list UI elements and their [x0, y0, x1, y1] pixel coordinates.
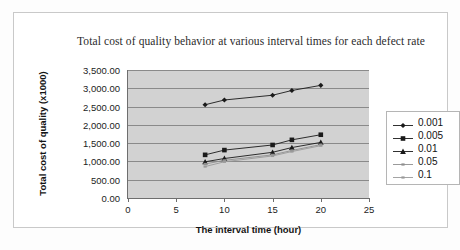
- data-point-line: [271, 155, 274, 157]
- x-axis-tick-label: 5: [174, 204, 179, 215]
- y-axis-tick-label: 2,500.00: [83, 101, 120, 112]
- data-point-diamond: [270, 93, 275, 98]
- chart-canvas: Total cost of quality behavior at variou…: [0, 0, 460, 250]
- data-point-line: [204, 163, 207, 165]
- data-point-square: [290, 138, 295, 143]
- data-point-square: [222, 148, 227, 153]
- y-axis-line: [127, 70, 128, 199]
- data-point-line: [319, 145, 322, 147]
- legend-item-0.1[interactable]: 0.1: [387, 168, 459, 181]
- data-point-diamond: [222, 97, 227, 102]
- legend-marker-line-icon: [392, 169, 414, 180]
- data-point-line: [204, 165, 207, 167]
- legend-marker-square-icon: [392, 130, 414, 141]
- x-axis-tick: [369, 198, 370, 202]
- legend-label: 0.001: [418, 117, 443, 128]
- legend-marker-diamond-icon: [392, 117, 414, 128]
- series-0.05: [204, 144, 323, 166]
- legend-label: 0.1: [418, 169, 432, 180]
- data-point-diamond: [318, 83, 323, 88]
- y-axis-tick-label: 3,000.00: [83, 83, 120, 94]
- plot-area: [128, 70, 369, 198]
- data-point-line: [290, 150, 293, 152]
- chart-frame: Total cost of quality behavior at variou…: [13, 12, 448, 228]
- y-axis-tick-label: 2,000.00: [83, 119, 120, 130]
- data-point-line: [401, 163, 404, 165]
- x-axis-tick: [273, 198, 274, 202]
- data-point-diamond: [203, 102, 208, 107]
- legend-label: 0.01: [418, 143, 437, 154]
- data-point-line: [401, 176, 404, 178]
- legend-label: 0.005: [418, 130, 443, 141]
- y-axis-tick-label: 500.00: [91, 174, 120, 185]
- x-axis-line: [127, 198, 370, 199]
- y-axis-tick-labels: 0.00500.001,000.001,500.002,000.002,500.…: [50, 70, 124, 198]
- chart-title: Total cost of quality behavior at variou…: [56, 35, 446, 47]
- x-axis-tick: [176, 198, 177, 202]
- data-point-square: [270, 143, 275, 148]
- series-0.01: [202, 140, 323, 165]
- series-line: [205, 145, 321, 164]
- data-point-diamond: [289, 88, 294, 93]
- data-point-square: [319, 132, 324, 137]
- series-0.001: [203, 83, 324, 108]
- data-point-square: [203, 153, 208, 158]
- legend-label: 0.05: [418, 156, 437, 167]
- legend-item-0.05[interactable]: 0.05: [387, 155, 459, 168]
- y-axis-tick-label: 0.00: [102, 193, 121, 204]
- series-line: [205, 85, 321, 104]
- data-point-diamond: [400, 123, 405, 128]
- x-axis-tick: [128, 198, 129, 202]
- legend-item-0.001[interactable]: 0.001: [387, 116, 459, 129]
- series-layer: [128, 70, 369, 198]
- x-axis-tick: [224, 198, 225, 202]
- y-axis-tick-label: 1,000.00: [83, 156, 120, 167]
- data-point-line: [223, 161, 226, 163]
- y-axis-tick-label: 1,500.00: [83, 138, 120, 149]
- y-axis-title: Total cost of quality (x1000): [37, 59, 48, 209]
- x-axis-title: The interval time (hour): [128, 224, 369, 235]
- legend-marker-line-icon: [392, 156, 414, 167]
- x-axis-tick-label: 25: [364, 204, 375, 215]
- x-axis-tick-label: 15: [267, 204, 278, 215]
- y-axis-tick-label: 3,500.00: [83, 65, 120, 76]
- chart-legend: 0.0010.0050.010.050.1: [386, 111, 460, 185]
- x-axis-tick-label: 0: [125, 204, 130, 215]
- legend-marker-triangle-icon: [392, 143, 414, 154]
- x-axis-tick-label: 10: [219, 204, 230, 215]
- data-point-square: [401, 136, 406, 141]
- legend-item-0.01[interactable]: 0.01: [387, 142, 459, 155]
- legend-item-0.005[interactable]: 0.005: [387, 129, 459, 142]
- x-axis-tick-label: 20: [316, 204, 327, 215]
- x-axis-tick: [321, 198, 322, 202]
